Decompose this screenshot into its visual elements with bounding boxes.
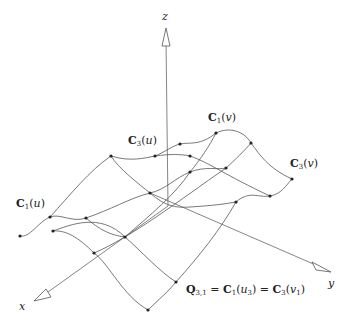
mesh-point <box>51 229 54 232</box>
curve-c3u <box>111 155 190 160</box>
mesh-point <box>146 308 149 311</box>
mesh-point <box>224 166 227 169</box>
q31-annotation: Q3,1 = C1(u3) = C3(v1) <box>186 283 305 297</box>
mesh-point <box>290 177 293 180</box>
x-arrow-icon <box>34 289 51 301</box>
label-c3u: C3(u) <box>128 134 157 148</box>
z-arrow-icon <box>162 28 170 46</box>
mesh-point <box>92 251 95 254</box>
curve-c1u <box>20 168 226 236</box>
label-c1u: C1(u) <box>16 197 45 211</box>
x-axis-label: x <box>19 300 25 313</box>
mesh-point <box>268 194 271 197</box>
curve-c3v <box>236 179 292 202</box>
y-arrow-icon <box>312 262 331 272</box>
mesh-point <box>48 215 51 218</box>
mesh-point <box>234 200 237 203</box>
mesh-point <box>18 234 21 237</box>
x-axis <box>48 206 168 292</box>
mesh-point <box>214 131 217 134</box>
mesh-point <box>123 235 126 238</box>
mesh-point <box>84 216 87 219</box>
z-axis <box>166 40 168 206</box>
mesh-point <box>188 170 191 173</box>
y-axis-label: y <box>328 277 334 290</box>
curve-c1v <box>216 130 292 179</box>
mesh-point <box>153 154 156 157</box>
mesh-point <box>148 191 151 194</box>
mesh-point <box>188 154 191 157</box>
mesh-point <box>178 142 181 145</box>
mesh-point <box>109 154 112 157</box>
mesh-point <box>249 141 252 144</box>
z-axis-label: z <box>162 10 168 23</box>
point-q31 <box>174 280 177 283</box>
label-c1v: C1(v) <box>208 111 236 125</box>
label-c3v: C3(v) <box>290 157 318 171</box>
